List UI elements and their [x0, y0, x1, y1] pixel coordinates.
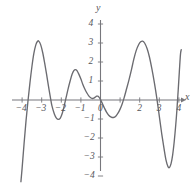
x-tick-label: 0 [98, 104, 103, 114]
x-tick-label: −4 [16, 104, 27, 114]
y-tick-label: −3 [84, 152, 95, 162]
y-tick-label: 4 [89, 19, 94, 29]
y-tick-label: 2 [89, 57, 94, 67]
y-tick-label: 3 [89, 38, 94, 48]
y-tick-label: −2 [84, 133, 95, 143]
y-tick-label: −1 [84, 114, 95, 124]
x-tick-label: 2 [137, 104, 142, 114]
y-axis-label: y [96, 3, 100, 13]
x-tick-label: −2 [55, 104, 66, 114]
plot-canvas [0, 0, 194, 186]
y-tick-label: 1 [89, 76, 94, 86]
x-tick-label: 3 [157, 104, 162, 114]
x-tick-label: 4 [176, 104, 181, 114]
x-tick-label: −3 [35, 104, 46, 114]
y-tick-label: −4 [84, 171, 95, 181]
x-axis-label: x [185, 92, 189, 102]
graph-figure: −4−3−2−102344321−1−2−3−4 y x [0, 0, 194, 186]
